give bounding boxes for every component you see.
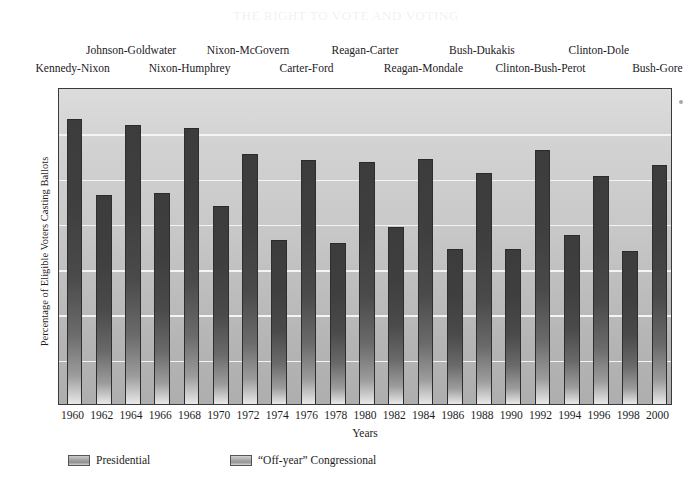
x-axis-tick-labels: 1960196219641966196819701972197419761978…: [0, 409, 692, 425]
bar-1990: [505, 249, 521, 404]
x-tick-label-2000: 2000: [646, 409, 669, 421]
x-tick-label-1962: 1962: [90, 409, 113, 421]
election-label-bush-gore: Bush-Gore: [632, 62, 682, 74]
bar-1970: [213, 206, 229, 404]
bar-1980: [359, 162, 375, 404]
legend-item-presidential: Presidential: [68, 454, 150, 466]
x-tick-label-1976: 1976: [295, 409, 318, 421]
bar-1986: [447, 249, 463, 404]
bar-1996: [593, 176, 609, 404]
legend-label-off-year-congressional: “Off-year” Congressional: [258, 454, 376, 466]
bar-1974: [271, 240, 287, 404]
election-label-nixon-humphrey: Nixon-Humphrey: [149, 62, 231, 74]
bar-1960: [67, 119, 83, 404]
bar-1972: [242, 154, 258, 404]
bar-1994: [564, 235, 580, 404]
x-tick-label-1984: 1984: [412, 409, 435, 421]
election-label-carter-ford: Carter-Ford: [279, 62, 333, 74]
x-tick-label-1992: 1992: [529, 409, 552, 421]
bar-1998: [622, 251, 638, 404]
legend-label-presidential: Presidential: [96, 454, 150, 466]
election-label-reagan-mondale: Reagan-Mondale: [384, 62, 463, 74]
legend-swatch-off-year-congressional: [230, 455, 252, 466]
election-label-clinton-bush-perot: Clinton-Bush-Perot: [495, 62, 585, 74]
x-tick-label-1986: 1986: [441, 409, 464, 421]
bar-series-layer: [59, 89, 671, 404]
x-tick-label-1990: 1990: [500, 409, 523, 421]
bar-1966: [154, 193, 170, 404]
election-labels-bottom-row: Kennedy-NixonNixon-HumphreyCarter-FordRe…: [0, 62, 692, 78]
x-tick-label-1970: 1970: [207, 409, 230, 421]
bar-1962: [96, 195, 112, 404]
election-label-johnson-goldwater: Johnson-Goldwater: [86, 44, 176, 56]
bar-1964: [125, 125, 141, 404]
election-labels-top-row: Johnson-GoldwaterNixon-McGovernReagan-Ca…: [0, 44, 692, 60]
bar-1992: [535, 150, 551, 404]
x-tick-label-1960: 1960: [61, 409, 84, 421]
page-speck: [679, 100, 683, 104]
x-tick-label-1968: 1968: [178, 409, 201, 421]
faded-page-title: THE RIGHT TO VOTE AND VOTING: [0, 8, 692, 24]
election-label-reagan-carter: Reagan-Carter: [331, 44, 398, 56]
x-tick-label-1978: 1978: [324, 409, 347, 421]
legend-item-off-year-congressional: “Off-year” Congressional: [230, 454, 376, 466]
bar-2000: [652, 165, 668, 404]
y-axis-title: Percentage of Eligible Voters Casting Ba…: [39, 112, 50, 392]
chart-legend: Presidential “Off-year” Congressional: [58, 452, 672, 474]
x-tick-label-1988: 1988: [470, 409, 493, 421]
election-label-clinton-dole: Clinton-Dole: [569, 44, 630, 56]
election-label-bush-dukakis: Bush-Dukakis: [449, 44, 515, 56]
x-tick-label-1972: 1972: [237, 409, 260, 421]
bar-1988: [476, 173, 492, 404]
bar-1968: [184, 128, 200, 404]
bar-1978: [330, 243, 346, 404]
voter-turnout-figure: THE RIGHT TO VOTE AND VOTING Johnson-Gol…: [0, 0, 692, 496]
x-axis-title: Years: [58, 427, 672, 439]
x-tick-label-1980: 1980: [354, 409, 377, 421]
election-label-nixon-mcgovern: Nixon-McGovern: [207, 44, 289, 56]
bar-1976: [301, 160, 317, 404]
plot-area: [58, 88, 672, 405]
x-tick-label-1996: 1996: [587, 409, 610, 421]
bar-1982: [388, 227, 404, 404]
x-tick-label-1994: 1994: [558, 409, 581, 421]
legend-swatch-presidential: [68, 455, 90, 466]
bar-1984: [418, 159, 434, 404]
x-tick-label-1998: 1998: [617, 409, 640, 421]
x-tick-label-1974: 1974: [266, 409, 289, 421]
x-tick-label-1964: 1964: [120, 409, 143, 421]
x-tick-label-1966: 1966: [149, 409, 172, 421]
x-tick-label-1982: 1982: [383, 409, 406, 421]
